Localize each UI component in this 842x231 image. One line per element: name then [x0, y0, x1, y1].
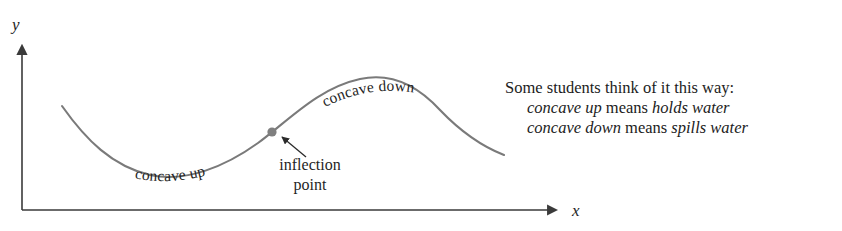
inflection-callout-line1: inflection — [279, 156, 340, 173]
note-meaning-holds-water: holds water — [652, 98, 729, 117]
note-line-concave-up: concave up means holds water — [505, 98, 835, 118]
inflection-callout-line2: point — [294, 176, 327, 194]
note-connector-2: means — [621, 118, 671, 137]
y-axis-label: y — [10, 15, 20, 34]
note-block: Some students think of it this way: conc… — [505, 78, 835, 138]
note-term-concave-up: concave up — [527, 98, 602, 117]
concavity-figure: y x concave up concave down inflection p… — [0, 0, 842, 231]
concave-down-label: concave down — [319, 77, 416, 110]
note-heading: Some students think of it this way: — [505, 78, 835, 98]
note-connector-1: means — [602, 98, 652, 117]
x-axis-label: x — [571, 201, 580, 220]
note-term-concave-down: concave down — [527, 118, 621, 137]
note-meaning-spills-water: spills water — [671, 118, 748, 137]
callout-arrow-line — [282, 137, 306, 157]
inflection-callout: inflection point — [279, 137, 340, 194]
note-line-concave-down: concave down means spills water — [505, 118, 835, 138]
inflection-point-dot — [267, 127, 276, 136]
concave-up-label: concave up — [134, 162, 207, 184]
